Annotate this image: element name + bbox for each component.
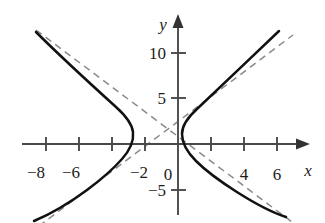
x-axis-arrow-icon — [296, 139, 310, 150]
y-axis-label: y — [157, 15, 167, 34]
x-tick-label--2: −2 — [130, 163, 148, 182]
tick-labels-group: −8 −6 −2 0 4 6 10 5 −5 — [27, 44, 281, 200]
hyperbola-left-branch-path — [34, 32, 133, 221]
hyperbola-right-branch-path — [182, 31, 286, 217]
x-tick-label--6: −6 — [62, 163, 80, 182]
y-tick-label-5: 5 — [158, 89, 167, 108]
hyperbola-figure: −8 −6 −2 0 4 6 10 5 −5 y x — [0, 0, 325, 223]
asymptote-positive-slope-line — [39, 35, 293, 223]
x-tick-label--8: −8 — [27, 163, 45, 182]
x-tick-label-6: 6 — [273, 165, 282, 184]
graph-canvas: −8 −6 −2 0 4 6 10 5 −5 y x — [0, 0, 325, 223]
x-tick-label-4: 4 — [240, 165, 249, 184]
y-axis-arrow-icon — [173, 14, 184, 28]
y-tick-label--5: −5 — [148, 181, 166, 200]
y-tick-label-10: 10 — [149, 44, 166, 63]
x-axis-label: x — [303, 161, 312, 180]
